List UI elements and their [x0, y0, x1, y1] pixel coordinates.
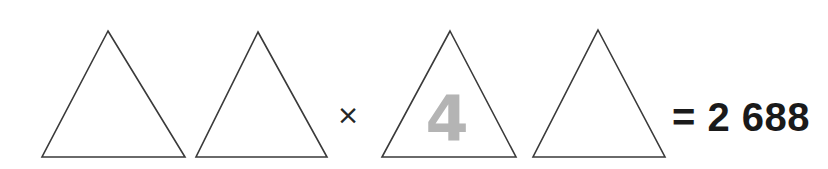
- triangle-1-group[interactable]: [42, 31, 185, 157]
- triangle-1[interactable]: [42, 31, 185, 157]
- triangle-4-group[interactable]: [533, 30, 665, 157]
- triangle-2[interactable]: [196, 32, 327, 157]
- handwritten-digit-4: 4: [425, 82, 468, 155]
- triangle-2-group[interactable]: [196, 32, 327, 157]
- triangle-4[interactable]: [533, 30, 665, 157]
- multiplication-sign: ×: [337, 99, 360, 130]
- triangle-3-group[interactable]: 4: [382, 31, 516, 157]
- puzzle-canvas: × 4 = 2 688: [0, 0, 828, 169]
- result-equation: = 2 688: [672, 95, 810, 139]
- puzzle-illustration: × 4 = 2 688: [0, 0, 828, 169]
